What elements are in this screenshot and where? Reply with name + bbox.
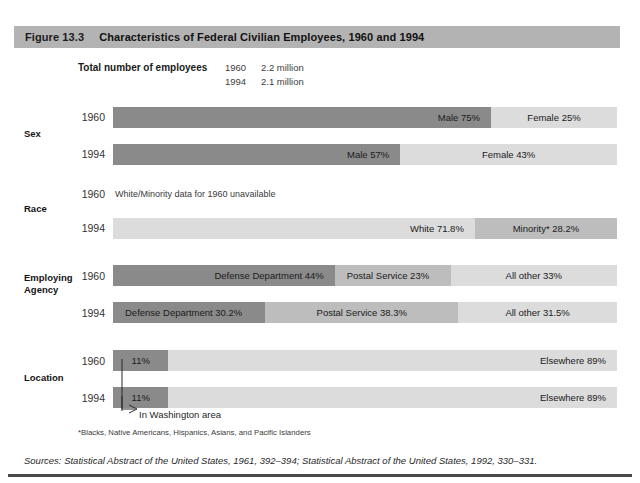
year-label-agency-1960: 1960 (71, 270, 105, 282)
segment-location-1994-elsewhere: Elsewhere 89% (168, 387, 617, 408)
segment-race-1994-white: White 71.8% (113, 218, 475, 239)
segment-label: Elsewhere 89% (540, 392, 606, 403)
bar-location-1994: 11% Elsewhere 89% (113, 387, 617, 408)
sources-line: Sources: Statistical Abstract of the Uni… (24, 455, 537, 466)
group-label-sex: Sex (24, 128, 41, 140)
segment-agency-1960-all-other: All other 33% (451, 265, 617, 286)
segment-label: All other 33% (506, 270, 563, 281)
segment-label: Postal Service 23% (347, 270, 429, 281)
footnote-minority: *Blacks, Native Americans, Hispanics, As… (78, 428, 311, 437)
year-label-location-1994: 1994 (71, 392, 105, 404)
segment-location-1994-washington: 11% (113, 387, 168, 408)
group-label-line1: Employing (24, 272, 73, 283)
segment-agency-1994-all-other: All other 31.5% (458, 302, 617, 323)
year-label-sex-1960: 1960 (71, 111, 105, 123)
bar-race-1994: White 71.8% Minority* 28.2% (113, 218, 617, 239)
segment-agency-1994-postal: Postal Service 38.3% (265, 302, 458, 323)
segment-agency-1994-defense: Defense Department 30.2% (113, 302, 265, 323)
segment-label: Male 75% (438, 112, 480, 123)
group-label-employing-agency: EmployingAgency (24, 272, 73, 295)
segment-agency-1960-defense: Defense Department 44% (113, 265, 335, 286)
washington-callout-label: In Washington area (139, 409, 221, 420)
segment-sex-1960-male: Male 75% (113, 107, 491, 128)
segment-label: 11% (132, 392, 150, 403)
segment-label: Elsewhere 89% (540, 355, 606, 366)
segment-race-1994-minority: Minority* 28.2% (475, 218, 617, 239)
segment-location-1960-washington: 11% (113, 350, 168, 371)
segment-sex-1994-female: Female 43% (400, 144, 617, 165)
segment-label: 11% (132, 355, 150, 366)
year-label-sex-1994: 1994 (71, 148, 105, 160)
year-label-location-1960: 1960 (71, 355, 105, 367)
bar-sex-1994: Male 57% Female 43% (113, 144, 617, 165)
segment-label: All other 31.5% (505, 307, 569, 318)
group-label-race: Race (24, 203, 47, 215)
year-label-race-1960: 1960 (71, 188, 105, 200)
bottom-rule (8, 474, 632, 477)
segment-label: Minority* 28.2% (513, 223, 580, 234)
bar-agency-1994: Defense Department 30.2% Postal Service … (113, 302, 617, 323)
bar-location-1960: 11% Elsewhere 89% (113, 350, 617, 371)
segment-sex-1994-male: Male 57% (113, 144, 400, 165)
segment-agency-1960-postal: Postal Service 23% (335, 265, 451, 286)
segment-label: Defense Department 30.2% (125, 307, 242, 318)
segment-sex-1960-female: Female 25% (491, 107, 617, 128)
stacked-bar-chart: Sex 1960 Male 75% Female 25% 1994 Male 5… (0, 0, 640, 483)
segment-location-1960-elsewhere: Elsewhere 89% (168, 350, 617, 371)
race-1960-unavailable-note: White/Minority data for 1960 unavailable (115, 189, 276, 199)
segment-label: Female 25% (527, 112, 580, 123)
year-label-race-1994: 1994 (71, 222, 105, 234)
segment-label: Male 57% (347, 149, 389, 160)
segment-label: White 71.8% (410, 223, 464, 234)
segment-label: Defense Department 44% (214, 270, 323, 281)
segment-label: Female 43% (482, 149, 535, 160)
group-label-location: Location (24, 372, 64, 384)
group-label-line2: Agency (24, 284, 58, 295)
year-label-agency-1994: 1994 (71, 307, 105, 319)
segment-label: Postal Service 38.3% (317, 307, 407, 318)
bar-agency-1960: Defense Department 44% Postal Service 23… (113, 265, 617, 286)
bar-sex-1960: Male 75% Female 25% (113, 107, 617, 128)
